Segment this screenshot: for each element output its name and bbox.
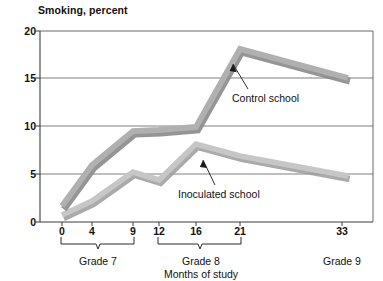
group-bracket-grade-8	[158, 237, 241, 249]
x-tick-marks	[62, 222, 342, 226]
chart-container: Smoking, percent 20 15 10 5 0 0 4 9 12 1…	[0, 0, 383, 281]
group-bracket-grade-7	[61, 237, 134, 249]
series-control-school	[62, 49, 350, 209]
chart-plot-svg	[0, 0, 383, 281]
plot-frame	[40, 31, 373, 222]
y-tick-marks	[35, 31, 40, 222]
gridlines	[40, 78, 373, 174]
leader-line-inoculated-school	[200, 160, 215, 185]
leader-line-control-school	[230, 64, 248, 89]
